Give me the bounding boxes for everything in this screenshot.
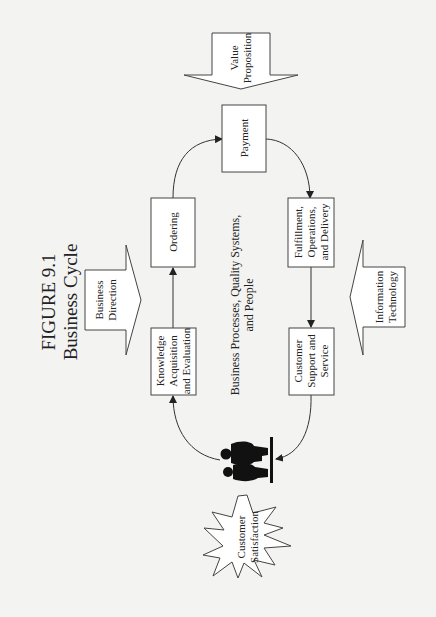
customer-support-label-1: Customer: [292, 339, 304, 382]
fulfillment-label-1: Fulfillment,: [292, 206, 304, 259]
figure-number: FIGURE 9.1: [38, 253, 59, 350]
customer-satisfaction-starburst: Customer Satisfaction: [203, 495, 291, 578]
fulfillment-label-2: Operations,: [305, 206, 317, 257]
payment-step: Payment: [222, 105, 266, 172]
people-to-knowledge-arrow: [173, 396, 220, 460]
customer-support-label-2: Support and: [305, 334, 317, 388]
business-direction-label-1: Business: [93, 280, 105, 319]
fulfillment-step: Fulfillment, Operations, and Delivery: [288, 198, 334, 267]
knowledge-label-3: and Evaluation: [180, 327, 192, 394]
people-at-counter-icon: [221, 437, 274, 483]
business-cycle-diagram: FIGURE 9.1 Business Cycle Business Direc…: [0, 0, 436, 617]
center-label: Business Processes, Quality Systems, and…: [228, 215, 256, 395]
information-technology-label-1: Information: [373, 270, 385, 323]
figure-title: FIGURE 9.1 Business Cycle: [38, 244, 81, 361]
fulfillment-label-3: and Delivery: [318, 203, 330, 261]
payment-label: Payment: [238, 119, 250, 158]
customer-satisfaction-label-2: Satisfaction: [248, 511, 260, 563]
ordering-to-payment-arrow: [173, 139, 222, 198]
ordering-step: Ordering: [151, 198, 195, 267]
knowledge-label-2: Acquisition: [167, 335, 179, 387]
business-direction-label-2: Direction: [106, 279, 118, 321]
customer-support-to-people-arrow: [276, 395, 311, 459]
center-label-line-1: Business Processes, Quality Systems,: [228, 215, 242, 395]
value-proposition-label-2: Proposition: [241, 32, 253, 83]
figure-caption: Business Cycle: [60, 244, 81, 361]
customer-support-label-3: Service: [318, 344, 330, 377]
knowledge-step: Knowledge Acquisition and Evaluation: [151, 327, 196, 395]
information-technology-label-2: Technology: [386, 271, 398, 323]
business-direction-arrow: Business Direction: [85, 245, 141, 355]
value-proposition-arrow: Value Proposition: [184, 32, 298, 89]
value-proposition-label-1: Value: [228, 45, 240, 70]
customer-support-step: Customer Support and Service: [289, 328, 334, 395]
payment-to-fulfillment-arrow: [266, 139, 310, 198]
information-technology-arrow: Information Technology: [350, 240, 405, 355]
knowledge-label-1: Knowledge: [154, 336, 166, 387]
center-label-line-2: and People: [242, 279, 256, 332]
ordering-label: Ordering: [167, 212, 179, 252]
customer-satisfaction-label-1: Customer: [235, 515, 247, 558]
